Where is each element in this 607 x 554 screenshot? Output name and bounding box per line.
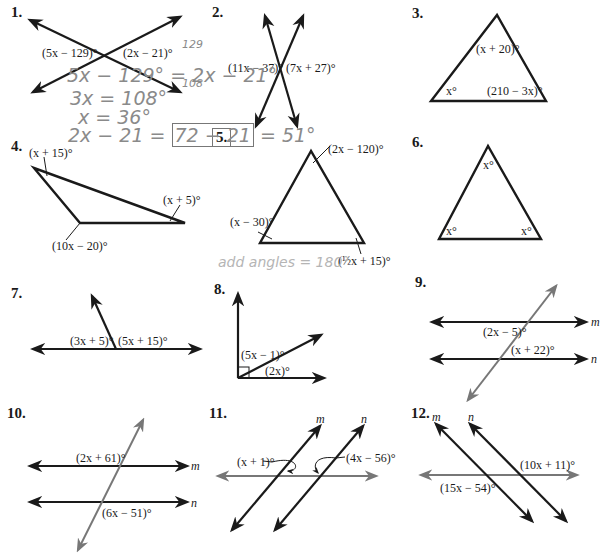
angle-label-2b: (7x + 27)° [286,61,336,76]
line-label-12-m: m [432,410,441,425]
problem-number-9: 9. [415,274,426,291]
angle-label-9b: (x + 22)° [511,343,555,358]
angle-label-10a: (2x + 61)° [76,451,126,466]
line-label-10-m: m [191,459,200,474]
line-label-11-n: n [361,412,367,427]
problem-number-3: 3. [412,5,423,22]
figure-10-parallel-lines [30,420,187,550]
problem-number-7: 7. [11,285,22,302]
angle-label-12b: (15x − 54)° [440,481,496,496]
angle-label-7b: (5x + 15)° [118,334,168,349]
line-label-9-n: n [591,352,597,367]
problem-number-8: 8. [214,281,225,298]
angle-label-5-left: (x − 30)° [230,215,274,230]
handwritten-margin-129: 129 [182,38,203,51]
angle-label-7a: (3x + 5)° [70,334,114,349]
handwritten-equation-1: 5x − 129° = 2x − 21° [67,64,277,86]
angle-label-4-right: (x + 5)° [163,193,201,208]
line-label-9-m: m [591,315,600,330]
problem-number-6: 6. [412,134,423,151]
line-label-12-n: n [468,410,474,425]
angle-label-6-top: x° [483,158,494,173]
problem-number-10: 10. [7,405,26,422]
handwritten-margin-108: 108 [182,77,203,90]
angle-label-4-bottom: (10x − 20)° [52,239,108,254]
figure-9-parallel-lines [432,286,586,400]
line-label-10-n: n [191,496,197,511]
angle-label-3-top: (x + 20)° [476,42,520,57]
angle-label-6-right: x° [521,224,532,239]
problem-number-11: 11. [209,405,227,422]
angle-label-6-left: x° [446,224,457,239]
angle-label-11a: (x + 1)° [237,455,275,470]
problem-number-12: 12. [411,405,430,422]
figure-11-parallel-lines [218,426,376,530]
figure-7-linear-pair [33,296,200,349]
figure-5-triangle [258,146,364,254]
angle-label-9a: (2x − 5)° [483,325,527,340]
angle-label-8a: (5x − 1)° [241,348,285,363]
handwritten-equation-4: 2x − 21 = 72 − 21 = 51° [68,124,316,146]
angle-label-12a: (10x + 11)° [520,458,575,473]
angle-label-3-left: x° [446,84,457,99]
angle-label-11b: (4x − 56)° [346,451,396,466]
problem-number-1: 1. [11,4,22,21]
angle-label-8b: (2x)° [265,364,290,379]
angle-label-1b: (2x − 21)° [123,46,173,61]
angle-label-1a: (5x − 129)° [42,46,98,61]
line-label-11-m: m [316,412,325,427]
angle-label-10b: (6x − 51)° [102,506,152,521]
handwritten-equation-4-prefix: 2x − 21 = [68,124,165,146]
angle-label-3-right: (210 − 3x)° [487,84,543,99]
problem-number-4: 4. [11,138,22,155]
angle-label-5-top: (2x − 120)° [328,142,384,157]
problem-number-2: 2. [212,4,223,21]
angle-label-4-top: (x + 15)° [29,146,73,161]
handwritten-equation-4-suffix: = 51° [260,124,316,146]
handwritten-boxed-value: 72 − 21 [172,123,254,147]
handwritten-note-add-angles: add angles = 180° [218,254,349,270]
